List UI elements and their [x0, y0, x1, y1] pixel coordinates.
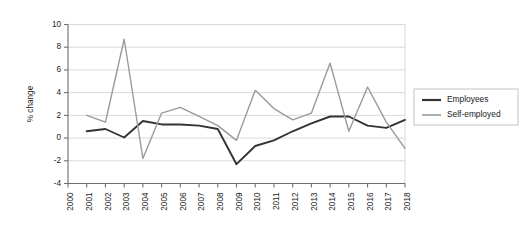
x-tick-label-2008: 2008: [216, 192, 225, 211]
y-tick-label-6: 6: [56, 65, 61, 74]
y-tick-label--2: -2: [54, 156, 62, 165]
series-group: [87, 39, 405, 164]
series-line-self-employed: [87, 39, 405, 158]
y-tick-label-0: 0: [56, 133, 61, 142]
series-line-employees: [87, 116, 405, 164]
y-axis-title: % change: [26, 85, 35, 122]
y-tick-label-8: 8: [56, 42, 61, 51]
legend: EmployeesSelf-employed: [414, 89, 518, 125]
x-tick-label-2017: 2017: [384, 192, 393, 211]
y-tick-label-4: 4: [56, 88, 61, 97]
legend-label-self-employed: Self-employed: [447, 109, 501, 119]
x-tick-label-2004: 2004: [141, 192, 150, 211]
y-tick-label-2: 2: [56, 111, 61, 120]
chart-figure: 1086420-2-420002001200220032004200520062…: [0, 0, 528, 241]
x-tick-label-2014: 2014: [328, 192, 337, 211]
y-tick-label-10: 10: [52, 20, 62, 29]
x-tick-label-2007: 2007: [197, 192, 206, 211]
gridlines-group: [68, 25, 405, 184]
x-tick-label-2006: 2006: [179, 192, 188, 211]
x-tick-label-2018: 2018: [403, 192, 412, 211]
y-tick-label--4: -4: [54, 179, 62, 188]
x-tick-label-2012: 2012: [291, 192, 300, 211]
x-tick-label-2015: 2015: [347, 192, 356, 211]
line-chart: 1086420-2-420002001200220032004200520062…: [0, 0, 528, 241]
x-tick-label-2009: 2009: [235, 192, 244, 211]
x-tick-label-2011: 2011: [272, 192, 281, 210]
x-tick-label-2010: 2010: [253, 192, 262, 211]
x-tick-label-2005: 2005: [160, 192, 169, 211]
x-tick-label-2001: 2001: [85, 192, 94, 211]
legend-label-employees: Employees: [447, 94, 488, 104]
x-tick-label-2000: 2000: [66, 192, 75, 211]
x-tick-label-2003: 2003: [122, 192, 131, 211]
x-tick-label-2016: 2016: [366, 192, 375, 211]
x-tick-label-2013: 2013: [310, 192, 319, 211]
x-tick-label-2002: 2002: [104, 192, 113, 211]
